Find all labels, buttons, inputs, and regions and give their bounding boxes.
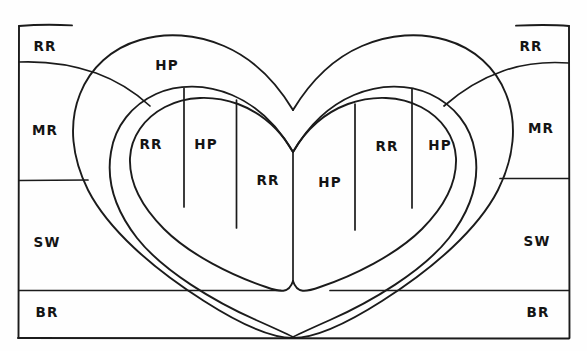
- heart-pattern-svg: RR MR SW BR RR MR SW BR HP RR HP RR HP R…: [0, 0, 587, 351]
- zone-label-left-mr: MR: [32, 122, 58, 138]
- border-rect-top-right-edge: [516, 25, 569, 26]
- zone-label-inner-2: HP: [194, 136, 217, 152]
- zone-label-right-mr: MR: [528, 120, 554, 136]
- left-mr-sw-divider: [19, 180, 88, 181]
- zone-label-right-br: BR: [527, 304, 550, 320]
- zone-label-inner-1: RR: [140, 136, 163, 152]
- pattern-diagram-root: RR MR SW BR RR MR SW BR HP RR HP RR HP R…: [0, 0, 587, 351]
- zone-label-right-sw: SW: [524, 233, 551, 249]
- zone-label-inner-6: HP: [428, 137, 451, 153]
- zone-label-right-rr: RR: [520, 38, 543, 54]
- zone-label-left-sw: SW: [34, 234, 61, 250]
- zone-label-inner-3: RR: [257, 172, 280, 188]
- zone-label-inner-4: HP: [318, 174, 341, 190]
- zone-label-inner-5: RR: [376, 138, 399, 154]
- zone-label-left-br: BR: [36, 304, 59, 320]
- zone-label-left-rr: RR: [34, 38, 57, 54]
- zone-label-heart-band-hp: HP: [155, 57, 178, 73]
